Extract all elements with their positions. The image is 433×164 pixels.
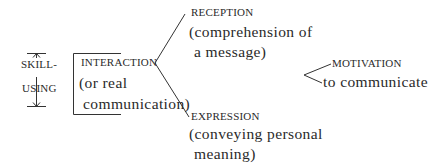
skill-using-label-line2: USING [22,83,57,94]
skill-using-label-line1: SKILL- [21,59,57,70]
reception-desc-line2: a message) [194,44,266,60]
reception-title: RECEPTION [191,7,253,18]
motivation-title: MOTIVATION [332,58,402,69]
expression-desc-line1: (conveying personal [189,126,323,142]
motivation-desc: to communicate [323,74,428,90]
reception-desc-line1: (comprehension of [189,24,312,40]
interaction-desc-line2: communication) [83,96,190,112]
expression-desc-line2: meaning) [194,146,256,162]
interaction-desc-line1: (or real [79,75,127,91]
interaction-title: INTERACTION [81,57,157,68]
expression-title: EXPRESSION [191,111,260,122]
branch-to-reception [155,14,185,63]
